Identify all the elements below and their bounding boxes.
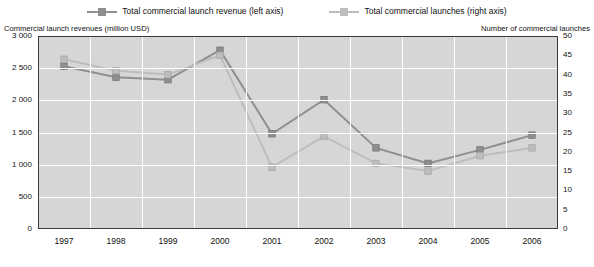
y-right-tick-label: 0 bbox=[563, 224, 593, 233]
y-right-tick-label: 10 bbox=[563, 185, 593, 194]
y-left-tick-label: 2 000 bbox=[0, 95, 32, 104]
data-point-marker bbox=[217, 52, 223, 58]
data-point-marker bbox=[529, 145, 535, 151]
legend-swatch-launches bbox=[329, 7, 359, 16]
y-right-tick-label: 30 bbox=[563, 108, 593, 117]
y-right-tick-label: 15 bbox=[563, 166, 593, 175]
y-right-tick-label: 40 bbox=[563, 70, 593, 79]
gridline-horizontal bbox=[38, 165, 558, 166]
legend-label-revenue: Total commercial launch revenue (left ax… bbox=[122, 6, 283, 16]
data-point-marker bbox=[61, 56, 67, 62]
plot-area bbox=[38, 36, 558, 229]
y-left-tick-label: 2 500 bbox=[0, 63, 32, 72]
y-left-tick-label: 1 000 bbox=[0, 160, 32, 169]
x-tick-label: 2003 bbox=[351, 236, 401, 246]
x-tick-label: 2000 bbox=[195, 236, 245, 246]
x-tick-label: 2004 bbox=[403, 236, 453, 246]
y-left-tick-label: 0 bbox=[0, 224, 32, 233]
y-left-tick-label: 500 bbox=[0, 192, 32, 201]
y-right-tick-label: 35 bbox=[563, 89, 593, 98]
plot-border-right bbox=[557, 36, 558, 229]
x-tick-label: 2002 bbox=[299, 236, 349, 246]
data-point-marker bbox=[321, 133, 327, 139]
data-point-marker bbox=[477, 153, 483, 159]
legend-item-revenue: Total commercial launch revenue (left ax… bbox=[87, 6, 283, 16]
legend-item-launches: Total commercial launches (right axis) bbox=[329, 6, 506, 16]
y-right-tick-label: 25 bbox=[563, 128, 593, 137]
y-right-tick-label: 20 bbox=[563, 147, 593, 156]
x-tick-label: 1999 bbox=[143, 236, 193, 246]
y-right-tick-label: 45 bbox=[563, 50, 593, 59]
x-tick-label: 1998 bbox=[91, 236, 141, 246]
plot-border-left bbox=[38, 36, 39, 229]
plot-border-bottom bbox=[38, 228, 558, 229]
data-point-marker bbox=[373, 145, 379, 151]
y-right-tick-label: 5 bbox=[563, 205, 593, 214]
plot-border-top bbox=[38, 36, 558, 37]
y-right-tick-label: 50 bbox=[563, 31, 593, 40]
legend-swatch-revenue bbox=[87, 7, 117, 16]
data-point-marker bbox=[113, 74, 119, 80]
legend-label-launches: Total commercial launches (right axis) bbox=[364, 6, 506, 16]
x-tick-label: 2005 bbox=[455, 236, 505, 246]
gridline-horizontal bbox=[38, 100, 558, 101]
x-tick-label: 1997 bbox=[39, 236, 89, 246]
y-left-tick-label: 3 000 bbox=[0, 31, 32, 40]
gridline-horizontal bbox=[38, 68, 558, 69]
gridline-horizontal bbox=[38, 133, 558, 134]
chart-figure: Total commercial launch revenue (left ax… bbox=[0, 0, 594, 267]
x-tick-label: 2001 bbox=[247, 236, 297, 246]
x-tick-label: 2006 bbox=[507, 236, 557, 246]
chart-legend: Total commercial launch revenue (left ax… bbox=[0, 2, 594, 20]
data-point-marker bbox=[165, 71, 171, 77]
gridline-horizontal bbox=[38, 197, 558, 198]
y-left-tick-label: 1 500 bbox=[0, 128, 32, 137]
data-point-marker bbox=[425, 168, 431, 174]
